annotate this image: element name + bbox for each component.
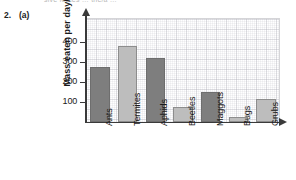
y-axis-tick-label: 100 <box>51 96 77 106</box>
y-axis-line <box>85 14 87 123</box>
bar-chart: Mass eaten per day/g 100200300400 AntsTe… <box>0 0 296 180</box>
category-label-grubs: Grubs <box>270 102 280 126</box>
y-axis-tick-label: 300 <box>51 56 77 66</box>
y-axis-arrow-icon <box>82 8 90 16</box>
y-axis-tick <box>80 102 86 103</box>
category-label-beetles: Beetles <box>187 97 197 126</box>
x-axis-arrow-icon <box>279 118 287 126</box>
y-axis-title-container: Mass eaten per day/g <box>36 15 50 125</box>
y-axis-tick <box>80 42 86 43</box>
category-label-bugs: Bugs <box>242 106 252 126</box>
category-label-ants: Ants <box>104 108 114 126</box>
y-axis-tick <box>80 62 86 63</box>
category-label-maggots: Maggots <box>215 92 225 126</box>
y-axis-tick-label: 200 <box>51 76 77 86</box>
category-label-aphids: Aphids <box>159 99 169 126</box>
y-axis-tick-label: 400 <box>51 36 77 46</box>
category-label-termites: Termites <box>132 93 142 126</box>
y-axis-tick <box>80 82 86 83</box>
